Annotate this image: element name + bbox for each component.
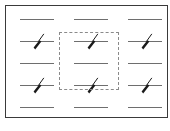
grid-cell[interactable]	[19, 77, 59, 95]
horizontal-rule-icon	[20, 19, 54, 20]
grid-cell[interactable]	[127, 33, 167, 51]
horizontal-rule-icon	[74, 107, 108, 108]
horizontal-rule-icon	[128, 19, 162, 20]
grid-cell[interactable]	[19, 33, 59, 51]
horizontal-rule-icon	[128, 107, 162, 108]
horizontal-rule-icon	[20, 107, 54, 108]
grid-cell[interactable]	[127, 11, 167, 29]
horizontal-rule-icon	[20, 63, 54, 64]
grid-cell[interactable]	[19, 99, 59, 117]
app-root	[0, 0, 170, 131]
horizontal-rule-icon	[20, 85, 54, 86]
horizontal-rule-icon	[74, 19, 108, 20]
grid-cell[interactable]	[127, 55, 167, 73]
slash-mark-icon	[19, 77, 59, 95]
horizontal-rule-icon	[20, 41, 54, 42]
slash-mark-icon	[19, 33, 59, 51]
grid-cell[interactable]	[73, 11, 113, 29]
slash-mark-icon	[127, 77, 167, 95]
slash-mark-icon	[127, 33, 167, 51]
selection-marquee[interactable]	[59, 32, 119, 90]
horizontal-rule-icon	[128, 63, 162, 64]
grid-cell[interactable]	[127, 99, 167, 117]
canvas-frame[interactable]	[5, 5, 168, 118]
horizontal-rule-icon	[128, 85, 162, 86]
grid-cell[interactable]	[73, 99, 113, 117]
grid-cell[interactable]	[19, 55, 59, 73]
horizontal-rule-icon	[128, 41, 162, 42]
grid-cell[interactable]	[127, 77, 167, 95]
grid-cell[interactable]	[19, 11, 59, 29]
